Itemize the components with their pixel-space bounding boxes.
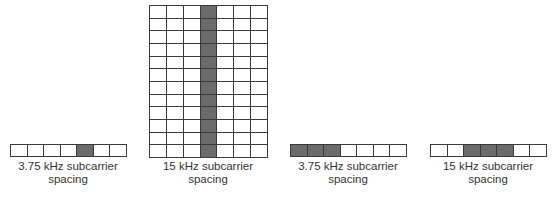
subcarrier-cell: [150, 107, 166, 119]
subcarrier-cell: [217, 95, 233, 107]
subcarrier-cell: [217, 133, 233, 145]
label-line-1: 15 kHz subcarrier: [128, 160, 288, 173]
subcarrier-cell: [184, 95, 200, 107]
subcarrier-cell: [251, 19, 267, 31]
subcarrier-cell: [150, 57, 166, 69]
subcarrier-cell: [217, 120, 233, 132]
subcarrier-cell: [167, 120, 183, 132]
subcarrier-cell: [184, 57, 200, 69]
subcarrier-cell: [150, 82, 166, 94]
subcarrier-cell: [167, 57, 183, 69]
subcarrier-cell: [217, 57, 233, 69]
subcarrier-cell: [251, 120, 267, 132]
subcarrier-cell: [390, 145, 406, 156]
label-line-2: spacing: [0, 173, 148, 186]
subcarrier-cell: [61, 145, 77, 156]
allocated-subcarrier-cell: [481, 145, 497, 156]
resource-grid: [149, 5, 268, 158]
allocated-subcarrier-cell: [464, 145, 480, 156]
subcarrier-cell: [251, 69, 267, 81]
allocated-subcarrier-cell: [497, 145, 513, 156]
subcarrier-cell: [184, 69, 200, 81]
subcarrier-cell: [234, 44, 250, 56]
subcarrier-cell: [251, 107, 267, 119]
subcarrier-cell: [341, 145, 357, 156]
panel-label: 15 kHz subcarrier spacing: [128, 160, 288, 186]
subcarrier-cell: [448, 145, 464, 156]
subcarrier-cell: [251, 6, 267, 18]
subcarrier-cell: [150, 19, 166, 31]
subcarrier-cell: [234, 6, 250, 18]
allocated-subcarrier-cell: [201, 44, 217, 56]
subcarrier-cell: [94, 145, 110, 156]
subcarrier-cell: [28, 145, 44, 156]
subcarrier-cell: [167, 133, 183, 145]
subcarrier-cell: [251, 95, 267, 107]
subcarrier-cell: [150, 69, 166, 81]
subcarrier-strip: [10, 144, 127, 157]
allocated-subcarrier-cell: [308, 145, 324, 156]
subcarrier-cell: [150, 145, 166, 157]
subcarrier-cell: [184, 31, 200, 43]
subcarrier-cell: [251, 82, 267, 94]
subcarrier-cell: [234, 133, 250, 145]
allocated-subcarrier-cell: [291, 145, 307, 156]
subcarrier-cell: [251, 133, 267, 145]
subcarrier-cell: [184, 6, 200, 18]
subcarrier-cell: [184, 133, 200, 145]
allocated-subcarrier-cell: [201, 82, 217, 94]
subcarrier-cell: [184, 120, 200, 132]
subcarrier-cell: [234, 57, 250, 69]
subcarrier-strip: [290, 144, 407, 157]
subcarrier-cell: [150, 6, 166, 18]
subcarrier-cell: [150, 31, 166, 43]
subcarrier-cell: [167, 31, 183, 43]
subcarrier-cell: [184, 107, 200, 119]
panel-label: 15 kHz subcarrier spacing: [408, 160, 553, 186]
allocated-subcarrier-cell: [201, 69, 217, 81]
subcarrier-cell: [184, 44, 200, 56]
allocated-subcarrier-cell: [201, 31, 217, 43]
subcarrier-cell: [184, 145, 200, 157]
allocated-subcarrier-cell: [201, 133, 217, 145]
subcarrier-cell: [357, 145, 373, 156]
subcarrier-cell: [217, 69, 233, 81]
subcarrier-strip: [430, 144, 547, 157]
allocated-subcarrier-cell: [201, 120, 217, 132]
label-line-1: 3.75 kHz subcarrier: [0, 160, 148, 173]
subcarrier-cell: [167, 82, 183, 94]
subcarrier-cell: [217, 82, 233, 94]
allocated-subcarrier-cell: [201, 6, 217, 18]
subcarrier-cell: [431, 145, 447, 156]
subcarrier-cell: [514, 145, 530, 156]
subcarrier-cell: [150, 95, 166, 107]
allocated-subcarrier-cell: [201, 19, 217, 31]
subcarrier-cell: [184, 82, 200, 94]
panel-label: 3.75 kHz subcarrier spacing: [268, 160, 428, 186]
subcarrier-cell: [234, 107, 250, 119]
subcarrier-cell: [234, 120, 250, 132]
subcarrier-cell: [217, 145, 233, 157]
subcarrier-cell: [167, 44, 183, 56]
allocated-subcarrier-cell: [201, 107, 217, 119]
subcarrier-cell: [251, 31, 267, 43]
subcarrier-cell: [234, 19, 250, 31]
subcarrier-cell: [234, 31, 250, 43]
subcarrier-cell: [44, 145, 60, 156]
subcarrier-cell: [167, 107, 183, 119]
subcarrier-cell: [184, 19, 200, 31]
panel-label: 3.75 kHz subcarrier spacing: [0, 160, 148, 186]
subcarrier-cell: [167, 145, 183, 157]
allocated-subcarrier-cell: [324, 145, 340, 156]
subcarrier-cell: [234, 95, 250, 107]
subcarrier-cell: [217, 19, 233, 31]
subcarrier-cell: [167, 6, 183, 18]
subcarrier-cell: [167, 69, 183, 81]
label-line-2: spacing: [408, 173, 553, 186]
subcarrier-cell: [251, 44, 267, 56]
label-line-1: 15 kHz subcarrier: [408, 160, 553, 173]
label-line-2: spacing: [128, 173, 288, 186]
allocated-subcarrier-cell: [201, 145, 217, 157]
allocated-subcarrier-cell: [201, 95, 217, 107]
subcarrier-cell: [11, 145, 27, 156]
